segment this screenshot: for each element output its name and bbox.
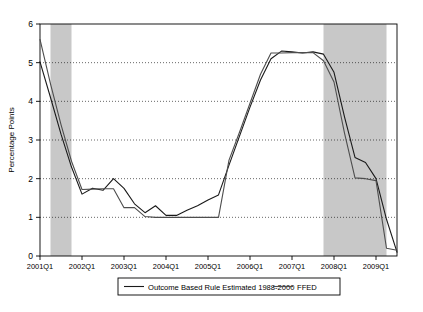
x-axis-tick-label: 2001Q1: [27, 262, 53, 271]
y-axis-tick-label: 1: [28, 212, 33, 222]
legend-label-outcome-based-rule: Outcome Based Rule Estimated 1988-2000: [148, 283, 294, 292]
x-axis-tick-label: 2007Q1: [279, 262, 305, 271]
x-axis-tick-label: 2005Q1: [195, 262, 221, 271]
line-chart: 0123456 2001Q12002Q12003Q12004Q12005Q120…: [0, 0, 423, 312]
y-axis-tick-label: 2: [28, 174, 33, 184]
y-axis-tick-label: 0: [28, 251, 33, 261]
legend-label-ffed: FFED: [297, 283, 317, 292]
y-axis-label: Percentage Points: [7, 107, 16, 172]
x-axis-tick-label: 2003Q1: [111, 262, 137, 271]
x-axis-tick-label: 2002Q1: [69, 262, 95, 271]
x-axis-tick-label: 2009Q1: [363, 262, 389, 271]
y-axis-tick-label: 6: [28, 19, 33, 29]
x-axis-tick-label: 2006Q1: [237, 262, 263, 271]
y-axis-tick-label: 5: [28, 58, 33, 68]
legend: Outcome Based Rule Estimated 1988-2000 F…: [118, 278, 340, 295]
x-axis-tick-label: 2008Q1: [321, 262, 347, 271]
y-axis-tick-label: 4: [28, 96, 33, 106]
x-axis-tick-label: 2004Q1: [153, 262, 179, 271]
y-axis-tick-label: 3: [28, 135, 33, 145]
chart-figure: 0123456 2001Q12002Q12003Q12004Q12005Q120…: [0, 0, 423, 312]
